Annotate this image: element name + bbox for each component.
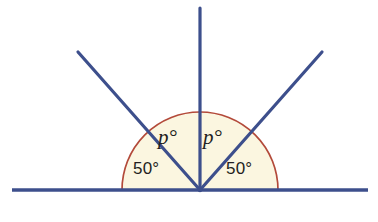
angle-label-p-right: p° bbox=[203, 127, 222, 148]
angle-label-50-right: 50° bbox=[226, 160, 252, 177]
geometry-figure bbox=[0, 0, 378, 222]
angle-label-50-left: 50° bbox=[133, 160, 159, 177]
angle-label-p-left: p° bbox=[158, 127, 177, 148]
vertex-point bbox=[198, 188, 202, 192]
diagram-canvas: p° p° 50° 50° bbox=[0, 0, 378, 222]
